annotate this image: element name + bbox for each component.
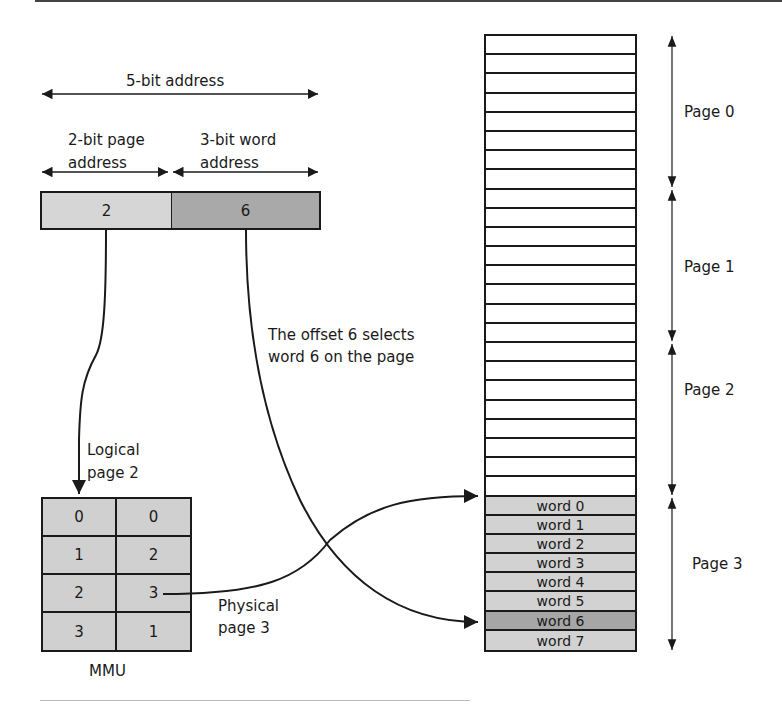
offset-arrow — [246, 230, 478, 622]
physical-page-arrow — [163, 496, 478, 594]
connector-layer — [0, 0, 782, 710]
logical-page-arrow — [79, 230, 106, 494]
